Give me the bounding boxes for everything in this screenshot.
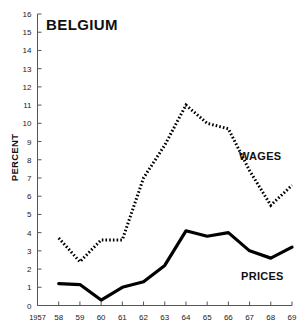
y-tick-label: 2 [27, 265, 32, 274]
y-axis: 012345678910111213141516 [23, 10, 42, 311]
x-tick-label: 66 [224, 313, 233, 322]
chart-plot-area: 012345678910111213141516 195758596061626… [0, 0, 303, 333]
x-tick-label: 59 [75, 313, 84, 322]
y-tick-label: 4 [27, 229, 32, 238]
y-tick-label: 15 [23, 28, 32, 37]
x-tick-label: 68 [266, 313, 275, 322]
y-tick-label: 13 [23, 65, 32, 74]
y-tick-label: 9 [27, 138, 32, 147]
y-tick-label: 7 [27, 174, 32, 183]
x-tick-label: 65 [203, 313, 212, 322]
x-tick-label: 60 [97, 313, 106, 322]
x-tick-label: 61 [118, 313, 127, 322]
x-tick-label: 1957 [29, 313, 46, 322]
y-tick-label: 14 [23, 46, 32, 55]
y-tick-label: 5 [27, 210, 32, 219]
x-axis: 1957585960616263646566676869 [29, 302, 297, 322]
chart-container: BELGIUM PERCENT WAGES PRICES 01234567891… [0, 0, 303, 333]
x-tick-label: 58 [54, 313, 63, 322]
y-tick-label: 12 [23, 83, 32, 92]
y-tick-label: 6 [27, 192, 32, 201]
series-lines [59, 105, 292, 300]
y-tick-label: 8 [27, 156, 32, 165]
y-tick-label: 0 [27, 302, 32, 311]
x-tick-label: 62 [139, 313, 148, 322]
x-tick-label: 63 [160, 313, 169, 322]
y-tick-label: 3 [27, 247, 32, 256]
y-tick-label: 10 [23, 119, 32, 128]
y-tick-label: 16 [23, 10, 32, 19]
x-tick-label: 69 [288, 313, 297, 322]
y-tick-label: 11 [23, 101, 32, 110]
x-tick-label: 67 [245, 313, 254, 322]
series-line-wages [59, 105, 292, 262]
x-tick-label: 64 [182, 313, 191, 322]
series-line-prices [59, 231, 292, 300]
y-tick-label: 1 [27, 283, 32, 292]
